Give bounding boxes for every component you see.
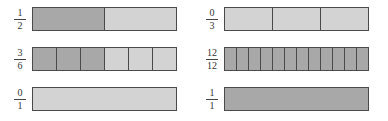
unshaded-segment [321,8,368,30]
shaded-segment [273,48,285,70]
fraction-bar-one-one [224,87,369,111]
numerator: 0 [204,8,220,18]
shaded-segment [285,48,297,70]
shaded-segment [237,48,249,70]
shaded-segment [321,48,333,70]
shaded-segment [225,88,368,110]
denominator: 1 [12,101,28,111]
unshaded-segment [129,48,153,70]
fraction-bar-zero-ones [32,87,177,111]
shaded-segment [81,48,105,70]
shaded-segment [33,48,57,70]
numerator: 1 [12,8,28,18]
fraction-bar-twelve-twelfths [224,47,369,71]
denominator: 3 [204,21,220,31]
shaded-segment [249,48,261,70]
shaded-segment [225,48,237,70]
numerator: 3 [12,48,28,58]
numerator: 1 [204,88,220,98]
denominator: 12 [204,61,220,71]
denominator: 1 [204,101,220,111]
shaded-segment [261,48,273,70]
numerator: 12 [204,48,220,58]
denominator: 2 [12,21,28,31]
shaded-segment [345,48,357,70]
unshaded-segment [273,8,321,30]
shaded-segment [33,8,105,30]
shaded-segment [333,48,345,70]
fraction-label-zero-thirds: 03 [204,8,220,31]
fraction-bar-zero-thirds [224,7,369,31]
fraction-label-three-sixths: 36 [12,48,28,71]
shaded-segment [297,48,309,70]
shaded-segment [357,48,368,70]
denominator: 6 [12,61,28,71]
fraction-bar-one-half [32,7,177,31]
fraction-label-one-half: 12 [12,8,28,31]
shaded-segment [309,48,321,70]
unshaded-segment [105,48,129,70]
unshaded-segment [105,8,176,30]
unshaded-segment [33,88,176,110]
fraction-bar-three-sixths [32,47,177,71]
unshaded-segment [153,48,176,70]
unshaded-segment [225,8,273,30]
numerator: 0 [12,88,28,98]
shaded-segment [57,48,81,70]
fraction-label-one-one: 11 [204,88,220,111]
fraction-label-twelve-twelfths: 1212 [204,48,220,71]
fraction-label-zero-ones: 01 [12,88,28,111]
